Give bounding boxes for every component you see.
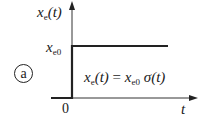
figure-label: a	[20, 66, 26, 82]
y-axis-label: xe(t)	[37, 5, 62, 22]
step-function-diagram: xe(t) xe0 a xe(t) = xe0 σ(t) 0 t	[0, 0, 207, 117]
plot-area	[0, 0, 207, 117]
y-axis-arrow-icon	[69, 1, 75, 10]
figure-label-badge: a	[14, 64, 33, 83]
x-axis-arrow-icon	[189, 95, 198, 101]
level-label: xe0	[46, 40, 61, 57]
origin-label: 0	[62, 102, 69, 116]
x-axis-label: t	[181, 102, 185, 117]
equation: xe(t) = xe0 σ(t)	[84, 70, 165, 87]
